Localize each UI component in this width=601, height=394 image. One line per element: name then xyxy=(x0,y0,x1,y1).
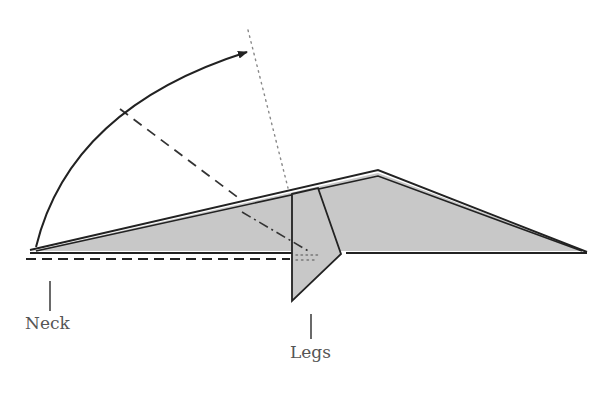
legs-label: Legs xyxy=(290,344,331,361)
diagonal-dashed-line xyxy=(120,109,240,199)
dotted-reference-line xyxy=(248,30,288,188)
fold-diagram xyxy=(0,0,601,394)
neck-label: Neck xyxy=(25,315,70,332)
